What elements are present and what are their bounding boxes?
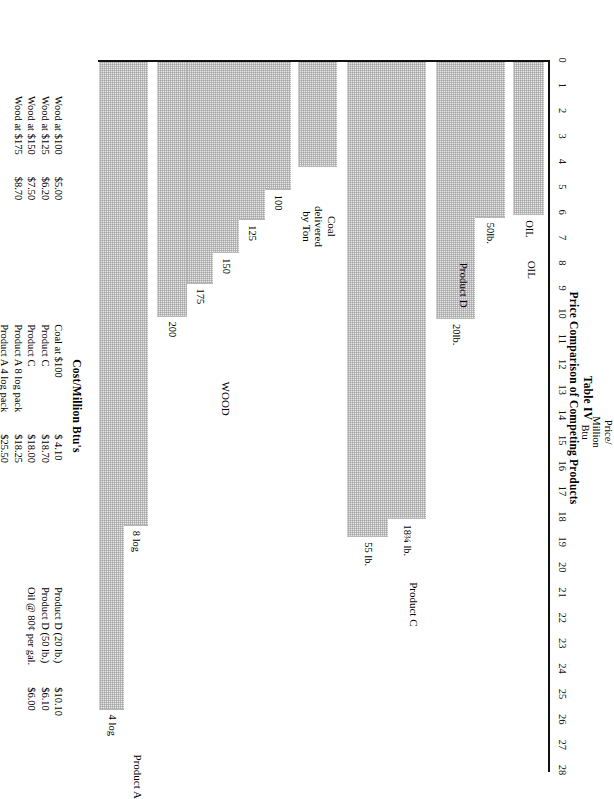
x-tick-18: 18	[556, 511, 568, 522]
cost-table-row: Product C$18.00	[25, 324, 39, 463]
x-tick-23: 23	[556, 638, 568, 649]
cost-item-price: $7.50	[25, 177, 39, 201]
title-line-2: Price Comparison of Competing Products	[567, 0, 581, 796]
cost-item-price: $6.10	[39, 687, 53, 716]
bar-row: OIL	[514, 62, 544, 772]
bar-row: 125	[239, 62, 265, 772]
bar-value-label: 4 log	[106, 709, 118, 736]
x-tick-22: 22	[556, 613, 568, 624]
cost-item-label: Product D (20 lb.)	[52, 587, 66, 687]
cost-item-label: Wood at $175	[12, 96, 26, 177]
cost-item-label: Wood at $125	[39, 96, 53, 177]
group-label-line: WOOD	[220, 382, 233, 416]
x-tick-2: 2	[556, 108, 568, 113]
bar-value-label: 20lb.	[450, 318, 462, 345]
cost-item-price: $5.00	[52, 177, 66, 201]
group-label-product-c: Product C	[408, 582, 421, 626]
bar-value-label: 18¾ lb.	[401, 518, 413, 556]
group-label-coal: Coaldeliveredby Ton	[301, 206, 339, 247]
group-label-line: by Ton	[301, 206, 314, 247]
axis-title-line-3: Btu	[580, 416, 592, 448]
cost-item-label: Product C	[25, 324, 39, 434]
x-tick-16: 16	[556, 460, 568, 471]
bar	[387, 62, 426, 519]
cost-item-price: $18.70	[39, 434, 53, 463]
cost-item-price: $6.00	[25, 687, 39, 716]
bar	[157, 62, 187, 317]
x-axis-title: Price/ Million Btu	[580, 416, 614, 448]
x-tick-4: 4	[556, 159, 568, 164]
bar	[347, 62, 388, 537]
bar-value-label: 125	[246, 219, 258, 241]
cost-table-row: Wood at $175$8.70	[12, 96, 26, 200]
cost-table-columns: Wood at $100$5.00Wood at $125$6.20Wood a…	[0, 96, 66, 716]
x-tick-15: 15	[556, 435, 568, 446]
bar-value-label: 150	[220, 252, 232, 274]
bar-value-label: 55 lb.	[362, 536, 374, 566]
group-label-line: Product C	[408, 582, 421, 626]
x-tick-10: 10	[556, 308, 568, 319]
x-tick-20: 20	[556, 562, 568, 573]
title-line-1: Table IV	[581, 0, 595, 796]
figure-title: Table IV Price Comparison of Competing P…	[567, 0, 595, 796]
cost-item-label: Product A 8 log pack	[12, 324, 26, 434]
group-label-wood: WOOD	[220, 382, 233, 416]
cost-item-label: Product A 4 log pack	[0, 324, 12, 434]
bar	[212, 62, 239, 253]
bar	[264, 62, 291, 190]
cost-item-price: $25.50	[0, 434, 12, 463]
x-tick-13: 13	[556, 384, 568, 395]
bar-row: 55 lb.	[348, 62, 388, 772]
axis-title-line-1: Price/	[603, 416, 614, 448]
bar-row: 4 log	[100, 62, 124, 772]
cost-table-row: Coal at $100$ 4.10	[52, 324, 66, 463]
cost-table-row: Product A 4 log pack$25.50	[0, 324, 12, 463]
bar	[186, 62, 213, 284]
x-tick-1: 1	[556, 83, 568, 88]
x-tick-0: 0	[556, 57, 568, 62]
cost-table-row: Product C$18.70	[39, 324, 53, 463]
bar-row: 200	[158, 62, 187, 772]
group-label-product-d: Product D	[458, 263, 471, 308]
x-axis-tick-labels: 0123456789101112131415161718192021222324…	[552, 60, 568, 772]
bar	[123, 62, 148, 526]
cost-table-column-2: Coal at $100$ 4.10Product C$18.70Product…	[0, 324, 66, 463]
bar	[513, 62, 544, 215]
cost-table-row: Product D (50 lb.)$6.10	[39, 587, 53, 716]
group-label-line: Coal	[326, 206, 339, 247]
x-tick-5: 5	[556, 184, 568, 189]
x-tick-24: 24	[556, 663, 568, 674]
x-tick-28: 28	[556, 765, 568, 776]
bar	[238, 62, 265, 220]
cost-table-row: Wood at $100$5.00	[52, 96, 66, 200]
bar-value-label: 8 log	[130, 525, 142, 552]
x-tick-14: 14	[556, 410, 568, 421]
x-tick-7: 7	[556, 235, 568, 240]
cost-item-label: Product C	[39, 324, 53, 434]
x-tick-19: 19	[556, 537, 568, 548]
group-label-line: Product D	[458, 263, 471, 308]
axis-title-line-2: Million	[591, 416, 603, 448]
cost-table-row: Product D (20 lb.)$10.10	[52, 587, 66, 716]
x-axis-line	[548, 60, 550, 772]
x-tick-11: 11	[556, 334, 568, 344]
cost-table-column-1: Wood at $100$5.00Wood at $125$6.20Wood a…	[12, 96, 66, 200]
x-tick-8: 8	[556, 260, 568, 265]
bar-value-label: 50lb.	[484, 217, 496, 244]
bar	[99, 62, 124, 710]
cost-table-title: Cost/Million Btu's	[70, 96, 84, 716]
cost-item-price: $18.25	[12, 434, 26, 463]
bar-row: 18¾ lb.	[388, 62, 426, 772]
bar-value-label: 200	[167, 316, 179, 338]
bar-row: 8 log	[124, 62, 148, 772]
cost-item-label: Wood at $150	[25, 96, 39, 177]
group-label-line: delivered	[313, 206, 326, 247]
cost-item-label: Wood at $100	[52, 96, 66, 177]
bar-row: 150	[213, 62, 239, 772]
cost-table: Cost/Million Btu's Wood at $100$5.00Wood…	[0, 96, 83, 716]
cost-item-price: $ 4.10	[52, 434, 66, 463]
bar-value-label: 175	[194, 283, 206, 305]
cost-table-column-3: Product D (20 lb.)$10.10Product D (50 lb…	[25, 587, 66, 716]
cost-item-label: Coal at $100	[52, 324, 66, 434]
